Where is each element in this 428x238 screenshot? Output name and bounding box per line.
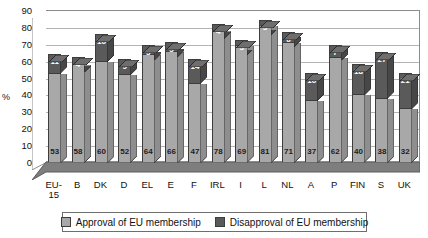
bar-value-approval: 58 [74,147,83,156]
bar-segment-approval[interactable]: 69 [235,45,248,162]
bar-segment-approval[interactable]: 81 [259,25,272,162]
bar-segment-disapproval[interactable]: 5 [142,45,155,53]
bar-segment-approval[interactable]: 58 [72,64,85,162]
bar-value-approval: 78 [214,147,223,156]
y-axis-tick-20: 20 [10,124,32,133]
bar-segment-approval[interactable]: 32 [399,108,412,162]
bar-segment-disapproval[interactable]: 4 [72,57,85,64]
bar-group-eu-15[interactable]: 5311 [48,10,61,162]
bar-segment-approval[interactable]: 66 [165,51,178,162]
bar-segment-disapproval[interactable]: 21 [399,73,412,108]
bar-group-e[interactable]: 665 [165,10,178,162]
bar-segment-approval[interactable]: 64 [142,54,155,162]
bar-group-irl[interactable]: 784 [212,10,225,162]
bar-top-face [73,51,84,58]
bar-segment-disapproval[interactable]: 18 [352,64,365,94]
bar-segment-approval[interactable]: 71 [282,42,295,162]
bar-value-approval: 69 [237,147,246,156]
bar-side-face [317,101,324,162]
bar-group-el[interactable]: 645 [142,10,155,162]
x-axis-tick-e: E [159,180,182,190]
bar-group-l[interactable]: 813 [259,10,272,162]
bar-segment-disapproval[interactable]: 5 [165,42,178,50]
bar-top-face [400,67,411,74]
bar-segment-disapproval[interactable]: 11 [48,54,61,73]
legend-label-disapproval: Disapproval of EU membership [230,217,368,228]
bar-value-approval: 52 [120,147,129,156]
bar-side-face [60,74,67,163]
legend-swatch-approval-icon [61,217,71,227]
bar-side-face [364,95,371,162]
bar-segment-approval[interactable]: 40 [352,94,365,162]
y-axis-tick-40: 40 [10,90,32,99]
x-axis-tick-s: S [369,180,392,190]
bar-top-face [306,67,317,74]
bar-segment-disapproval[interactable]: 27 [375,52,388,98]
bar-group-a[interactable]: 3716 [305,10,318,162]
bar-value-approval: 47 [190,147,199,156]
bar-group-s[interactable]: 3827 [375,10,388,162]
plot-area: % 9080706050403020100 531158460165296456… [0,0,428,198]
bar-segment-disapproval[interactable]: 14 [188,59,201,83]
bar-top-face [353,58,364,65]
bar-side-face [154,55,161,162]
bar-value-approval: 40 [354,147,363,156]
bar-value-approval: 32 [401,147,410,156]
y-axis-tick-90: 90 [10,6,32,15]
y-axis-tick-80: 80 [10,23,32,32]
bar-value-approval: 60 [97,147,106,156]
bar-group-p[interactable]: 627 [329,10,342,162]
bar-side-face [224,31,231,162]
bar-segment-approval[interactable]: 62 [329,57,342,162]
bar-group-d[interactable]: 529 [118,10,131,162]
x-axis-tick-d: D [112,180,135,190]
bar-value-approval: 62 [331,147,340,156]
x-axis-tick-fin: FIN [346,180,369,190]
bar-segment-approval[interactable]: 53 [48,73,61,163]
x-axis-tick-a: A [299,180,322,190]
chart-legend: Approval of EU membership Disapproval of… [62,212,367,232]
x-axis-tick-irl: IRL [206,180,229,190]
bar-top-face [260,14,271,21]
bar-segment-disapproval[interactable]: 6 [282,32,295,42]
bar-segment-approval[interactable]: 47 [188,83,201,162]
bar-side-face [411,109,418,162]
bar-segment-approval[interactable]: 78 [212,30,225,162]
bar-segment-approval[interactable]: 52 [118,74,131,162]
bar-group-b[interactable]: 584 [72,10,85,162]
bar-group-fin[interactable]: 4018 [352,10,365,162]
y-axis-tick-0: 0 [10,158,32,167]
bar-side-face [341,58,348,162]
bar-top-face [96,28,107,35]
bar-segment-disapproval[interactable]: 7 [329,45,342,57]
bar-value-approval: 53 [50,147,59,156]
x-axis-tick-labels: EU-15BDKDELEFIRLILNLAPFINSUK [46,180,420,208]
chart-left-depth-panel [32,18,47,170]
bar-segment-approval[interactable]: 60 [95,61,108,162]
bar-group-f[interactable]: 4714 [188,10,201,162]
bar-side-face [84,65,91,162]
bar-group-dk[interactable]: 6016 [95,10,108,162]
y-axis-tick-30: 30 [10,107,32,116]
bar-value-approval: 38 [377,147,386,156]
bar-side-face [200,84,207,162]
bar-segment-disapproval[interactable]: 3 [259,20,272,25]
bar-segment-approval[interactable]: 37 [305,100,318,162]
bar-top-face [166,36,177,43]
bar-top-face [330,39,341,46]
bar-segment-disapproval[interactable]: 3 [235,40,248,45]
bar-side-face [177,52,184,162]
bar-group-nl[interactable]: 716 [282,10,295,162]
bar-value-approval: 71 [284,147,293,156]
bar-segment-approval[interactable]: 38 [375,98,388,162]
bar-segment-disapproval[interactable]: 4 [212,24,225,31]
x-axis-tick-l: L [252,180,275,190]
bar-top-face [213,18,224,25]
bar-group-i[interactable]: 693 [235,10,248,162]
bar-group-uk[interactable]: 3221 [399,10,412,162]
legend-item-approval: Approval of EU membership [61,217,201,228]
y-axis-tick-60: 60 [10,57,32,66]
bar-segment-disapproval[interactable]: 16 [95,34,108,61]
bar-segment-disapproval[interactable]: 9 [118,59,131,74]
bar-segment-disapproval[interactable]: 16 [305,73,318,100]
